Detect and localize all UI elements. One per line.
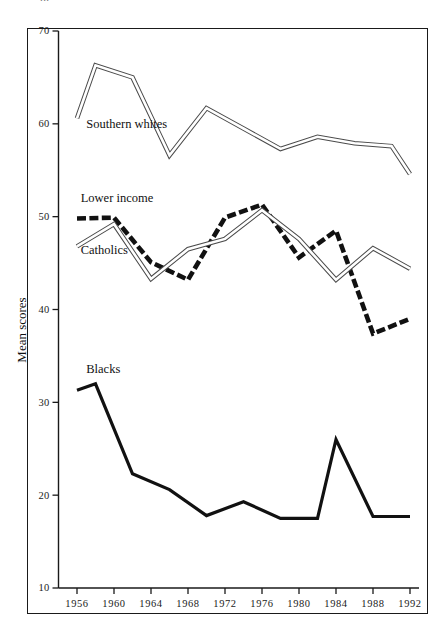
x-tick-label: 1976 bbox=[250, 598, 273, 609]
series-annotation-group: Southern whitesLower incomeCatholicsBlac… bbox=[81, 117, 168, 376]
y-axis-title: Mean scores bbox=[14, 297, 29, 362]
y-tick-label: 30 bbox=[38, 397, 49, 408]
chart-canvas: 70605040302010 1956196019641968197219761… bbox=[0, 0, 439, 630]
series-group bbox=[77, 65, 410, 518]
y-tick-label: 20 bbox=[38, 490, 49, 501]
x-tick-label: 1960 bbox=[102, 598, 125, 609]
x-tick-label: 1956 bbox=[65, 598, 88, 609]
series-blacks bbox=[77, 384, 410, 519]
series-label-catholics: Catholics bbox=[81, 243, 128, 257]
series-line-solid bbox=[77, 384, 410, 519]
y-tick-label: 10 bbox=[38, 582, 49, 593]
y-tick-label: 70 bbox=[38, 25, 49, 36]
x-tick-label: 1968 bbox=[176, 598, 199, 609]
series-label-southern-whites: Southern whites bbox=[86, 117, 167, 131]
figure-container: ... 70605040302010 195619601964196819721… bbox=[0, 0, 439, 630]
series-label-lower-income: Lower income bbox=[81, 191, 154, 205]
y-tick-group: 70605040302010 bbox=[38, 25, 58, 593]
x-tick-label: 1988 bbox=[361, 598, 384, 609]
x-tick-label: 1964 bbox=[139, 598, 163, 609]
x-tick-label: 1972 bbox=[213, 598, 236, 609]
y-tick-label: 60 bbox=[38, 118, 49, 129]
x-tick-group: 1956196019641968197219761980198419881992 bbox=[65, 588, 421, 609]
x-tick-label: 1980 bbox=[287, 598, 310, 609]
series-label-blacks: Blacks bbox=[86, 362, 120, 376]
y-tick-label: 50 bbox=[38, 211, 49, 222]
x-tick-label: 1984 bbox=[324, 598, 348, 609]
y-tick-label: 40 bbox=[38, 304, 49, 315]
x-tick-label: 1992 bbox=[398, 598, 421, 609]
